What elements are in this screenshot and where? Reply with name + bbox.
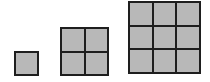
unit-square <box>154 3 176 25</box>
unit-square <box>86 29 108 51</box>
unit-square <box>62 29 84 51</box>
unit-square <box>177 3 199 25</box>
figure-1x1 <box>14 51 39 76</box>
unit-square <box>154 50 176 72</box>
unit-square <box>130 27 152 49</box>
unit-square <box>177 27 199 49</box>
unit-square <box>130 3 152 25</box>
unit-square <box>177 50 199 72</box>
unit-square <box>154 27 176 49</box>
unit-square <box>130 50 152 72</box>
unit-square <box>16 53 37 74</box>
figure-3x3 <box>128 1 201 74</box>
unit-square <box>62 53 84 75</box>
figure-2x2 <box>60 27 109 76</box>
unit-square <box>86 53 108 75</box>
